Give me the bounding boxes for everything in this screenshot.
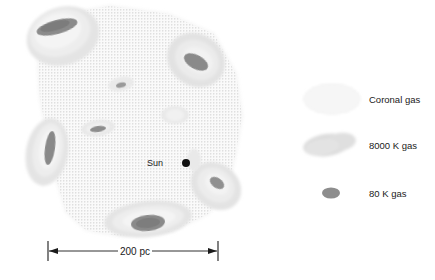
local-bubble-diagram: Sun 200 pc Coronal gas <box>0 0 435 280</box>
legend-item-80k-gas: 80 K gas <box>322 188 407 200</box>
legend-swatch-8000k-gas <box>302 131 357 159</box>
legend-label-8000k-gas: 8000 K gas <box>369 140 417 151</box>
sun-label: Sun <box>147 158 163 168</box>
scale-bar-arrow-left <box>49 248 58 254</box>
scale-bar-label: 200 pc <box>120 246 150 257</box>
cloud-near-sun <box>187 149 201 171</box>
scale-bar-arrow-right <box>208 248 217 254</box>
sun-dot-icon <box>182 159 190 167</box>
legend: Coronal gas 8000 K gas 80 K gas <box>302 83 421 199</box>
cloud-interior-right <box>161 106 189 124</box>
legend-item-coronal-gas: Coronal gas <box>303 83 420 115</box>
legend-label-coronal-gas: Coronal gas <box>369 94 420 105</box>
figure-container: Sun 200 pc Coronal gas <box>0 0 435 280</box>
legend-item-8000k-gas: 8000 K gas <box>302 131 418 159</box>
legend-swatch-coronal-gas <box>303 83 361 115</box>
legend-label-80k-gas: 80 K gas <box>369 188 407 199</box>
legend-swatch-80k-gas <box>322 188 340 199</box>
